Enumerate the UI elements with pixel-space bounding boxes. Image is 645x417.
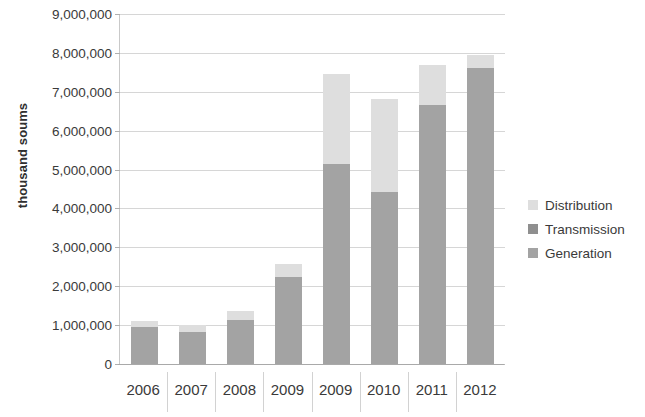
bar-segment-distribution xyxy=(275,264,302,277)
legend-swatch-icon xyxy=(528,224,538,234)
plot-area xyxy=(119,14,505,364)
bar-group xyxy=(179,14,206,364)
bar-segment-generation xyxy=(323,164,350,364)
x-axis-tick-label: 2011 xyxy=(408,381,456,398)
bar-segment-generation xyxy=(227,320,254,364)
legend-label: Distribution xyxy=(545,198,613,213)
x-axis-tick-label: 2007 xyxy=(167,381,215,398)
legend: DistributionTransmissionGeneration xyxy=(528,193,643,265)
legend-item[interactable]: Generation xyxy=(528,241,643,265)
x-axis-tick-label: 2006 xyxy=(119,381,167,398)
y-axis-tick-label: 2,000,000 xyxy=(18,279,112,294)
y-axis-tick-label: 5,000,000 xyxy=(18,162,112,177)
bar-group xyxy=(227,14,254,364)
bar-segment-distribution xyxy=(371,99,398,192)
x-axis-tick-labels: 20062007200820092009201020112012 xyxy=(119,372,504,412)
y-axis-tick-label: 9,000,000 xyxy=(18,7,112,22)
x-axis-tick-label: 2010 xyxy=(360,381,408,398)
bar-group xyxy=(323,14,350,364)
x-axis-tick-label: 2009 xyxy=(312,381,360,398)
legend-label: Transmission xyxy=(545,222,625,237)
x-axis-separator xyxy=(408,372,409,412)
bar-group xyxy=(371,14,398,364)
x-axis-separator xyxy=(167,372,168,412)
y-axis-tick-label: 8,000,000 xyxy=(18,45,112,60)
x-axis-separator xyxy=(456,372,457,412)
y-axis-tick-labels: 9,000,0008,000,0007,000,0006,000,0005,00… xyxy=(18,0,112,417)
bar-segment-distribution xyxy=(323,74,350,163)
x-axis-separator xyxy=(360,372,361,412)
bar-group xyxy=(419,14,446,364)
x-axis-tick-label: 2008 xyxy=(215,381,263,398)
bars-layer xyxy=(120,14,505,364)
x-axis-line xyxy=(118,364,504,365)
bar-segment-generation xyxy=(467,68,494,364)
legend-swatch-icon xyxy=(528,248,538,258)
legend-swatch-icon xyxy=(528,200,538,210)
bar-segment-distribution xyxy=(419,65,446,105)
bar-segment-distribution xyxy=(227,311,254,320)
y-axis-tick-label: 4,000,000 xyxy=(18,201,112,216)
legend-item[interactable]: Distribution xyxy=(528,193,643,217)
y-axis-tick-label: 7,000,000 xyxy=(18,84,112,99)
bar-segment-distribution xyxy=(131,321,158,327)
bar-segment-generation xyxy=(275,277,302,364)
bar-group xyxy=(467,14,494,364)
y-axis-tick-label: 0 xyxy=(18,357,112,372)
x-axis-separator xyxy=(215,372,216,412)
y-axis-tick-label: 3,000,000 xyxy=(18,240,112,255)
bar-segment-generation xyxy=(371,192,398,364)
bar-group xyxy=(275,14,302,364)
bar-segment-distribution xyxy=(179,325,206,332)
legend-label: Generation xyxy=(545,246,612,261)
x-axis-separator xyxy=(312,372,313,412)
x-axis-separator xyxy=(263,372,264,412)
x-axis-tick-label: 2012 xyxy=(456,381,504,398)
bar-segment-generation xyxy=(179,332,206,364)
bar-group xyxy=(131,14,158,364)
y-axis-tick-label: 6,000,000 xyxy=(18,123,112,138)
bar-chart: thousand soums 9,000,0008,000,0007,000,0… xyxy=(0,0,645,417)
x-axis-tick-label: 2009 xyxy=(263,381,311,398)
bar-segment-generation xyxy=(419,105,446,364)
bar-segment-distribution xyxy=(467,55,494,69)
bar-segment-generation xyxy=(131,327,158,364)
y-axis-tick-label: 1,000,000 xyxy=(18,318,112,333)
legend-item[interactable]: Transmission xyxy=(528,217,643,241)
